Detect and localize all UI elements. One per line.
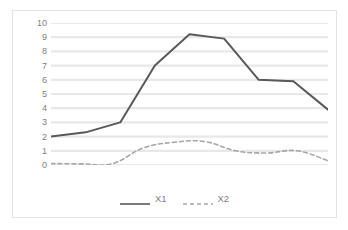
y-axis-tick-label: 5 (19, 90, 47, 99)
chart-container: 109876543210 X1X2 (12, 10, 337, 218)
series-line-x1 (51, 34, 328, 136)
y-axis-tick-label: 3 (19, 118, 47, 127)
series-line-x2 (51, 141, 328, 165)
gridlines (51, 23, 328, 165)
y-axis: 109876543210 (17, 11, 47, 217)
y-axis-tick-label: 1 (19, 146, 47, 155)
legend-item-x1[interactable]: X1 (120, 194, 167, 204)
y-axis-tick-label: 10 (19, 19, 47, 28)
y-axis-tick-label: 2 (19, 132, 47, 141)
legend-swatch-x2 (183, 194, 213, 202)
y-axis-tick-label: 4 (19, 104, 47, 113)
y-axis-tick-label: 9 (19, 33, 47, 42)
chart-legend: X1X2 (13, 194, 336, 204)
y-axis-tick-label: 0 (19, 161, 47, 170)
y-axis-tick-label: 8 (19, 47, 47, 56)
y-axis-tick-label: 6 (19, 75, 47, 84)
series-lines (51, 34, 328, 165)
chart-svg (51, 23, 328, 165)
plot-area (51, 23, 328, 165)
legend-label: X1 (155, 194, 167, 204)
legend-swatch-x1 (120, 194, 150, 202)
legend-label: X2 (218, 194, 230, 204)
chart-plot-wrapper: 109876543210 X1X2 (13, 11, 336, 217)
y-axis-tick-label: 7 (19, 61, 47, 70)
legend-item-x2[interactable]: X2 (183, 194, 230, 204)
